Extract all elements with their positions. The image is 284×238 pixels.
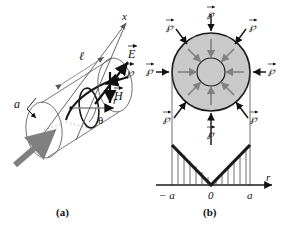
poynting-label-top-group: ℘ <box>207 7 215 20</box>
poynting-label-a: ℘ <box>126 66 135 79</box>
figure-canvas: x ℓ a E ℘ H <box>0 0 284 238</box>
length-label: ℓ <box>79 49 84 63</box>
poynting-label-top-right-group: ℘ <box>249 20 257 33</box>
tick-label-a: a <box>247 189 253 201</box>
poynting-label-bottom-left: ℘ <box>163 113 171 125</box>
poynting-label-a-group: ℘ <box>126 64 135 79</box>
caption-a: (a) <box>56 206 69 219</box>
panel-b-group: ℘ ℘ ℘ ℘ ℘ ℘ ℘ <box>146 7 276 219</box>
poynting-label-top-right: ℘ <box>249 21 257 33</box>
theta-label: θ <box>98 114 103 126</box>
e-field-label: E <box>127 47 136 61</box>
radius-label: a <box>14 97 20 111</box>
tick-label-minus-a: − a <box>159 189 175 201</box>
theta-arc <box>89 108 96 122</box>
axis-x-line <box>30 23 126 152</box>
poynting-label-top-left: ℘ <box>166 21 174 33</box>
inner-circle <box>197 58 225 86</box>
poynting-arrow-bottom-left <box>174 102 186 118</box>
plot-hatching <box>178 150 246 185</box>
plot-r-axis-label: r <box>266 171 271 183</box>
radial-axis-label: r <box>113 94 118 106</box>
axis-origin-dot <box>69 106 72 109</box>
axis-x-label: x <box>121 10 127 22</box>
poynting-label-center-bottom-group: ℘ <box>207 127 215 140</box>
panel-a-group: x ℓ a E ℘ H <box>14 10 137 219</box>
poynting-label-top: ℘ <box>207 8 215 20</box>
poynting-arrow-top-right <box>235 29 246 44</box>
poynting-label-bottom-right: ℘ <box>250 113 258 125</box>
poynting-label-top-left-group: ℘ <box>166 20 174 33</box>
physics-figure: x ℓ a E ℘ H <box>0 0 284 238</box>
caption-b: (b) <box>203 206 217 219</box>
poynting-label-bottom-right-group: ℘ <box>250 112 258 125</box>
poynting-label-center-bottom: ℘ <box>207 128 215 140</box>
poynting-label-right-group: ℘ <box>268 64 276 77</box>
tick-label-zero: 0 <box>208 189 214 201</box>
poynting-arrow-bottom-right <box>236 102 248 118</box>
poynting-label-left-group: ℘ <box>146 64 154 77</box>
poynting-label-left: ℘ <box>146 65 154 77</box>
poynting-label-right: ℘ <box>268 65 276 77</box>
poynting-label-bottom-left-group: ℘ <box>163 112 171 125</box>
e-field-label-group: E <box>127 46 137 61</box>
poynting-arrow-top-left <box>176 29 187 44</box>
